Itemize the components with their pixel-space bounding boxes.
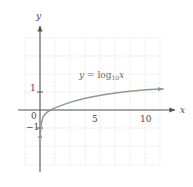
y-axis-label: y [36,12,41,21]
equation-function: log [97,70,111,80]
y-tick-label-1: 1 [30,84,36,93]
equation-argument: x [119,70,124,80]
equation-lhs: y [79,70,84,80]
plot-canvas [0,0,193,187]
x-tick-label-5: 5 [92,115,98,124]
grid-lines [25,38,160,165]
x-tick-label-10: 10 [140,115,151,124]
logarithm-graph-figure: y x 1 0 −1 5 10 y = log10x [0,0,193,187]
y-tick-label-negative-1: −1 [26,123,39,132]
origin-tick-label: 0 [31,112,37,121]
curve-equation-annotation: y = log10x [79,71,124,80]
x-axis-label: x [180,106,185,115]
equation-base: 10 [111,74,119,81]
equation-equals: = [87,70,95,80]
